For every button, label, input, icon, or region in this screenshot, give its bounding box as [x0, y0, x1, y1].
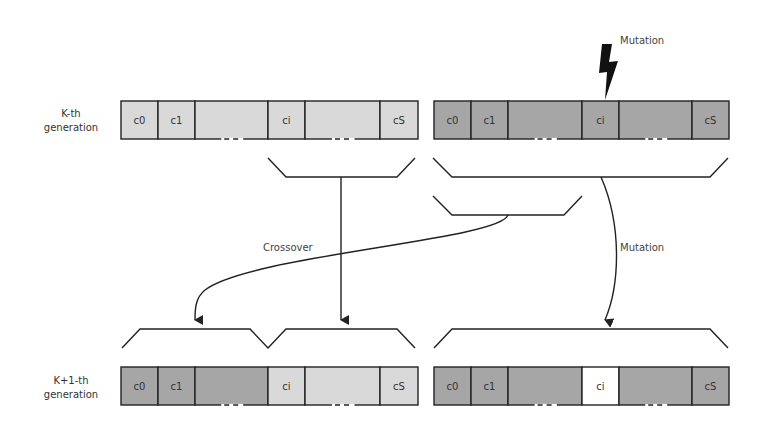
gene-cell-ellipsis — [305, 367, 380, 405]
gene-label: ci — [282, 381, 290, 392]
lightning-bolt-icon — [599, 44, 618, 100]
crossover-label: Crossover — [263, 242, 314, 253]
bracket-child-mutation — [434, 329, 728, 348]
generation-label-k1-line2: generation — [44, 389, 98, 400]
gene-label: cS — [393, 115, 405, 126]
gene-cell-ellipsis — [305, 101, 380, 139]
gene-cell-ellipsis — [619, 367, 692, 405]
gene-label: c0 — [447, 381, 459, 392]
gene-label: cS — [705, 381, 717, 392]
gene-cell-ellipsis — [619, 101, 692, 139]
gene-label: c1 — [484, 381, 496, 392]
chromosome-parent-a: c0c1cicS — [121, 101, 418, 139]
chromosome-parent-b: c0c1cicS — [434, 101, 729, 139]
gene-cell-ellipsis — [195, 101, 268, 139]
gene-label: ci — [596, 381, 604, 392]
mutation-event-label: Mutation — [620, 35, 664, 46]
gene-cell-ellipsis — [508, 367, 582, 405]
gene-label: c0 — [447, 115, 459, 126]
generation-label-k-line2: generation — [44, 122, 98, 133]
gene-label: cS — [393, 381, 405, 392]
gene-label: c1 — [171, 115, 183, 126]
bracket-parent-b-segment — [433, 196, 582, 215]
gene-label: cS — [705, 115, 717, 126]
bracket-child-crossover — [122, 329, 415, 348]
generation-label-k1: K+1-th generation — [44, 375, 98, 400]
gene-label: ci — [282, 115, 290, 126]
gene-label: c0 — [134, 115, 146, 126]
chromosome-child-crossover: c0c1cicS — [121, 367, 418, 405]
gene-label: c1 — [484, 115, 496, 126]
generation-label-k1-line1: K+1-th — [53, 375, 88, 386]
gene-cell-ellipsis — [195, 367, 268, 405]
generation-label-k: K-th generation — [44, 108, 98, 133]
generation-label-k-line1: K-th — [61, 108, 80, 119]
gene-cell-ellipsis — [508, 101, 582, 139]
gene-label: ci — [596, 115, 604, 126]
genetic-algorithm-diagram: K-th generation K+1-th generation c0c1ci… — [0, 0, 767, 431]
chromosome-child-mutation: c0c1cicS — [434, 367, 729, 405]
crossover-arrow-curved — [195, 215, 508, 320]
bracket-parent-a-segment — [268, 158, 415, 177]
mutation-arrow — [601, 177, 617, 320]
gene-label: c1 — [171, 381, 183, 392]
gene-label: c0 — [134, 381, 146, 392]
bracket-parent-b-full — [433, 158, 728, 177]
mutation-label: Mutation — [620, 242, 664, 253]
